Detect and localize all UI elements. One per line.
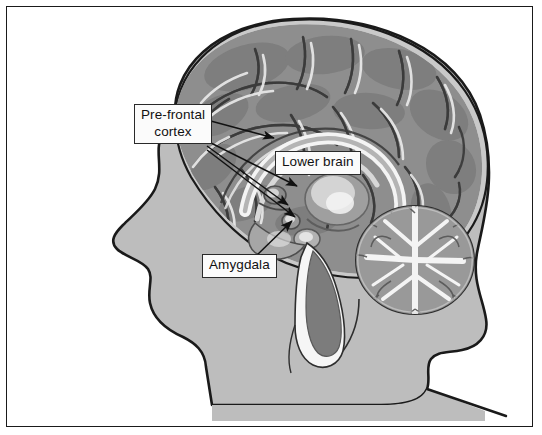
- figure-frame: Pre-frontal cortex Lower brain Amygdala: [6, 6, 533, 427]
- label-pre-frontal-cortex: Pre-frontal cortex: [134, 104, 212, 144]
- label-pre-frontal-cortex-line1: Pre-frontal: [141, 107, 205, 124]
- label-lower-brain-line1: Lower brain: [282, 154, 354, 171]
- label-pre-frontal-cortex-line2: cortex: [141, 124, 205, 141]
- brain-anatomy-illustration: [7, 7, 533, 427]
- label-amygdala: Amygdala: [202, 254, 277, 278]
- label-amygdala-line1: Amygdala: [209, 257, 270, 274]
- label-lower-brain: Lower brain: [275, 151, 361, 175]
- brain-diagram-figure: Pre-frontal cortex Lower brain Amygdala: [0, 0, 542, 435]
